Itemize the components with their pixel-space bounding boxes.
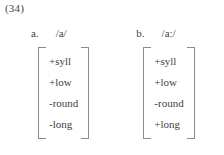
item-b-feature-matrix: +syll +low -round +long [143, 47, 194, 139]
feature-row: +long [154, 114, 180, 135]
item-a-letter: a. [31, 27, 39, 40]
example-item-b: b. /aː/ +syll +low -round +long [136, 27, 194, 139]
left-bracket-icon [38, 47, 46, 139]
feature-row: -round [154, 93, 183, 114]
item-b-feature-list: +syll +low -round +long [154, 51, 183, 135]
right-bracket-icon [81, 47, 89, 139]
feature-row: +low [154, 72, 177, 93]
feature-row: +syll [154, 51, 176, 72]
feature-row: -round [49, 93, 78, 114]
item-b-ipa-transcription: /aː/ [162, 27, 176, 40]
item-a-header: a. /a/ [31, 27, 89, 40]
right-bracket-icon [187, 47, 195, 139]
feature-row: +syll [49, 51, 71, 72]
item-a-feature-list: +syll +low -round -long [49, 51, 78, 135]
feature-matrix-row: a. /a/ +syll +low -round -long b. /aː/ +… [0, 27, 224, 139]
item-b-letter: b. [136, 27, 144, 40]
feature-row: +low [49, 72, 72, 93]
item-a-ipa-transcription: /a/ [56, 27, 67, 40]
feature-row: -long [49, 114, 72, 135]
left-bracket-icon [143, 47, 151, 139]
item-a-feature-matrix: +syll +low -round -long [38, 47, 89, 139]
item-b-header: b. /aː/ [136, 27, 194, 40]
example-item-a: a. /a/ +syll +low -round -long [31, 27, 89, 139]
example-number: (34) [5, 2, 24, 15]
